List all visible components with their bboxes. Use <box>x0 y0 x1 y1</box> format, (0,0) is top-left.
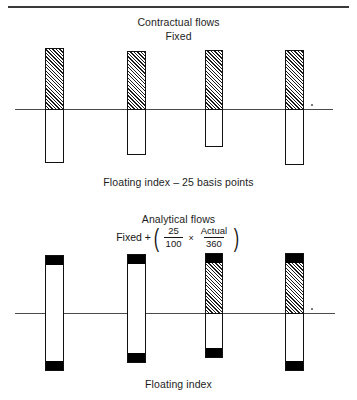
formula-close-paren: ) <box>234 228 239 248</box>
contractual-bar-3 <box>205 50 223 147</box>
contractual-bar-1-fixed-hatch-segment <box>46 49 63 110</box>
analytical-bar-3-body-white-segment <box>206 314 222 348</box>
analytical-bar-1-bottom-cap-segment <box>46 361 63 370</box>
analytical-flows-chart <box>0 248 357 376</box>
analytical-bar-1-body-white-segment <box>46 265 63 361</box>
contractual-bar-4 <box>285 50 304 165</box>
contractual-bar-2-fixed-hatch-segment <box>128 52 145 110</box>
formula-open-paren: ( <box>154 228 159 248</box>
analytical-bar-4 <box>285 253 304 371</box>
analytical-floating-index-label: Floating index <box>0 378 357 391</box>
analytical-bar-2-bottom-cap-segment <box>128 353 145 362</box>
contractual-flows-title: Contractual flows <box>0 16 357 29</box>
analytical-bar-2-top-cap-segment <box>128 255 145 264</box>
analytical-bar-4-body-white-segment <box>286 314 303 361</box>
analytical-axis-endpoint-dot <box>311 308 313 310</box>
analytical-bar-3-top-cap-segment <box>206 254 222 263</box>
analytical-bar-3-bottom-cap-segment <box>206 348 222 357</box>
formula-fraction-rate: 25 100 <box>164 226 184 249</box>
analytical-bar-4-bottom-cap-segment <box>286 361 303 370</box>
formula-lead-term: Fixed + <box>116 231 151 244</box>
contractual-flows-chart <box>0 40 357 170</box>
contractual-bar-3-floating-white-segment <box>206 110 222 146</box>
analytical-bar-1-top-cap-segment <box>46 256 63 265</box>
contractual-bar-4-floating-white-segment <box>286 110 303 164</box>
analytical-bar-2 <box>127 254 146 363</box>
analytical-bar-4-fixed-hatch-segment <box>286 263 303 314</box>
top-divider-rule <box>8 6 349 8</box>
contractual-bar-2-floating-white-segment <box>128 110 145 154</box>
formula-fraction-daycount: Actual 360 <box>199 226 229 249</box>
analytical-bar-4-top-cap-segment <box>286 254 303 263</box>
formula-fraction-rate-numerator: 25 <box>166 226 181 237</box>
contractual-bar-2 <box>127 51 146 155</box>
cash-flow-diagram: Contractual flows Fixed Floating index –… <box>0 0 357 400</box>
contractual-bar-3-fixed-hatch-segment <box>206 51 222 110</box>
analytical-bar-2-body-white-segment <box>128 264 145 353</box>
formula-fraction-daycount-numerator: Actual <box>199 226 229 237</box>
formula-multiply-operator: × <box>188 232 193 243</box>
contractual-axis-endpoint-dot <box>311 104 313 106</box>
analytical-bar-1 <box>45 255 64 371</box>
contractual-bar-1 <box>45 48 64 163</box>
contractual-bar-4-fixed-hatch-segment <box>286 51 303 110</box>
contractual-floating-index-label: Floating index – 25 basis points <box>0 176 357 189</box>
analytical-bar-3-fixed-hatch-segment <box>206 263 222 314</box>
analytical-flows-formula: Fixed + ( 25 100 × Actual 360 ) <box>0 226 357 249</box>
contractual-bar-1-floating-white-segment <box>46 110 63 162</box>
analytical-bar-3 <box>205 253 223 358</box>
